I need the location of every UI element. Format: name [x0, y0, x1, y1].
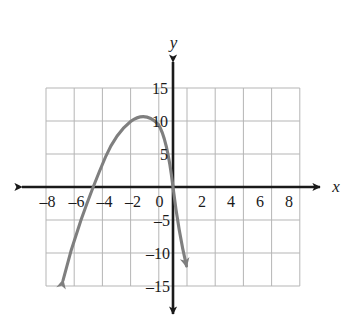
- xtick-label: 8: [285, 193, 293, 210]
- xtick-label: –2: [124, 193, 141, 210]
- xtick-label: –4: [96, 193, 113, 210]
- ytick-label: 5: [160, 146, 168, 163]
- x-axis-tick-labels: –8 –6 –4 –2 0 2 4 6 8: [39, 193, 294, 210]
- xtick-label: 4: [227, 193, 235, 210]
- xtick-label: –8: [39, 193, 56, 210]
- x-axis-label: x: [331, 177, 340, 196]
- xtick-label: 2: [198, 193, 206, 210]
- xtick-label: 6: [256, 193, 264, 210]
- ytick-label: –15: [145, 278, 170, 295]
- ytick-label: –5: [153, 212, 170, 229]
- y-axis-label: y: [168, 33, 178, 52]
- xtick-label: 0: [156, 193, 164, 210]
- xtick-label: –6: [68, 193, 85, 210]
- graph-figure: –8 –6 –4 –2 0 2 4 6 8 15 10 5 –5 –10 –15…: [0, 0, 354, 329]
- coordinate-plane-svg: –8 –6 –4 –2 0 2 4 6 8 15 10 5 –5 –10 –15…: [0, 0, 354, 329]
- ytick-label: –10: [145, 245, 170, 262]
- ytick-label: 15: [152, 80, 168, 97]
- ytick-label: 10: [152, 113, 168, 130]
- axes: [22, 62, 320, 314]
- axis-names: y x: [168, 33, 341, 196]
